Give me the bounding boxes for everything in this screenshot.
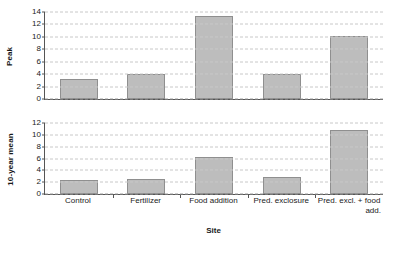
x-category-label-line: Fertilizer: [130, 196, 161, 205]
x-category-label-line: add.: [315, 206, 383, 216]
bar-pred-excl-food-add: [330, 130, 368, 194]
gridline-1-4: [45, 170, 383, 171]
bar-food-addition: [195, 157, 233, 194]
y-tick-label: 12: [11, 119, 45, 127]
x-category-label-3: Pred. exclosure: [247, 196, 315, 216]
gridline-1-12: [45, 123, 383, 124]
bar-pred-excl-food-add: [330, 36, 368, 99]
gridline-0-12: [45, 24, 383, 25]
y-tick-label: 0: [11, 190, 45, 198]
x-category-label-1: Fertilizer: [112, 196, 180, 216]
y-tick-label: 6: [11, 58, 45, 66]
gridline-1-8: [45, 146, 383, 147]
x-category-label-line: Pred. excl. + food: [318, 196, 380, 205]
y-tick-label: 12: [11, 20, 45, 28]
x-category-label-line: Food addition: [189, 196, 237, 205]
gridline-0-10: [45, 36, 383, 37]
y-tick-label: 14: [11, 8, 45, 16]
bar-control: [60, 79, 98, 99]
bar-chart-figure: Peak 02468101214 10-year mean 024681012 …: [0, 0, 395, 256]
y-tick-label: 2: [11, 83, 45, 91]
y-tick-label: 2: [11, 178, 45, 186]
gridline-0-6: [45, 61, 383, 62]
bar-pred-exclosure: [263, 177, 301, 194]
x-category-label-line: Pred. exclosure: [253, 196, 309, 205]
gridline-0-2: [45, 86, 383, 87]
x-axis-title: Site: [44, 226, 383, 235]
y-tick-label: 4: [11, 70, 45, 78]
plot-area-peak: 02468101214: [44, 12, 383, 100]
y-tick-label: 8: [11, 45, 45, 53]
gridline-1-10: [45, 134, 383, 135]
gridline-0-4: [45, 74, 383, 75]
x-category-label-2: Food addition: [180, 196, 248, 216]
gridline-0-14: [45, 12, 383, 13]
x-category-label-0: Control: [44, 196, 112, 216]
x-category-label-4: Pred. excl. + foodadd.: [315, 196, 383, 216]
y-tick-label: 8: [11, 143, 45, 151]
y-tick-label: 4: [11, 166, 45, 174]
x-axis-category-labels: ControlFertilizerFood additionPred. excl…: [44, 196, 383, 216]
y-tick-label: 10: [11, 131, 45, 139]
panel-peak: Peak 02468101214: [0, 0, 395, 113]
x-category-label-line: Control: [65, 196, 91, 205]
plot-area-ten-year-mean: 024681012: [44, 123, 383, 195]
gridline-1-0: [45, 194, 383, 195]
gridline-0-8: [45, 49, 383, 50]
y-tick-label: 10: [11, 33, 45, 41]
y-tick-label: 6: [11, 155, 45, 163]
gridline-1-2: [45, 182, 383, 183]
panel-ten-year-mean: 10-year mean 024681012: [0, 113, 395, 205]
gridline-0-0: [45, 99, 383, 100]
gridline-1-6: [45, 158, 383, 159]
y-tick-label: 0: [11, 95, 45, 103]
